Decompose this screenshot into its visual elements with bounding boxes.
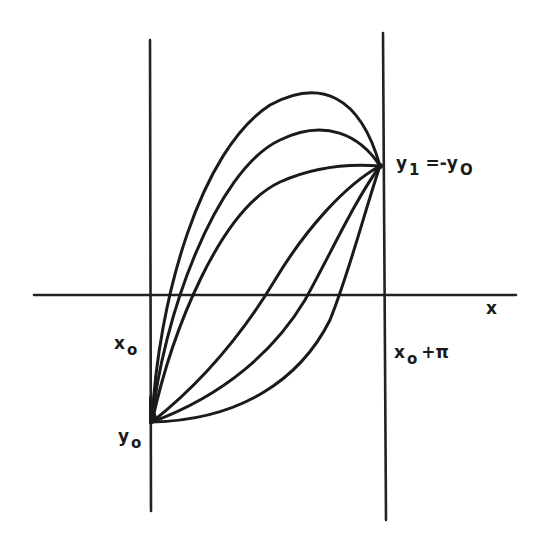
- x1-label-sub: o: [407, 350, 417, 368]
- y1-label-sub: 1: [409, 161, 419, 179]
- x0-plus-pi-label: xo+π: [394, 344, 449, 361]
- y1-label: y1=-yO: [396, 155, 473, 172]
- left-vertical-line-x0: [150, 40, 151, 511]
- end-point-node: [377, 163, 383, 169]
- right-vertical-line-x0-plus-pi: [383, 33, 386, 520]
- x-axis-label-text: x: [486, 298, 497, 318]
- y1-label-main: y: [396, 153, 407, 173]
- x0-label-sub: o: [127, 341, 137, 359]
- y0-label-sub: o: [131, 434, 141, 452]
- x1-label-main: x: [394, 342, 405, 362]
- y0-label-main: y: [118, 426, 129, 446]
- y1-label-eq: =-y: [426, 153, 458, 173]
- x0-label-main: x: [114, 333, 125, 353]
- diagram-canvas: [0, 0, 538, 545]
- x0-label: xo: [114, 335, 137, 352]
- x1-label-suffix: +π: [421, 342, 449, 362]
- y1-label-eq-sub: O: [460, 161, 473, 179]
- solution-curve-1: [152, 93, 380, 422]
- x-axis-label: x: [486, 300, 497, 317]
- y0-label: yo: [118, 428, 141, 445]
